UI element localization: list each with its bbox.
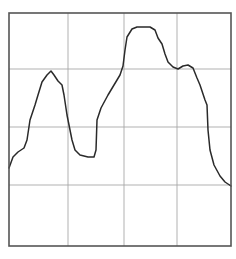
plot-frame	[9, 13, 231, 246]
grid-lines	[9, 13, 231, 246]
line-chart	[0, 0, 236, 259]
data-line	[9, 27, 231, 186]
